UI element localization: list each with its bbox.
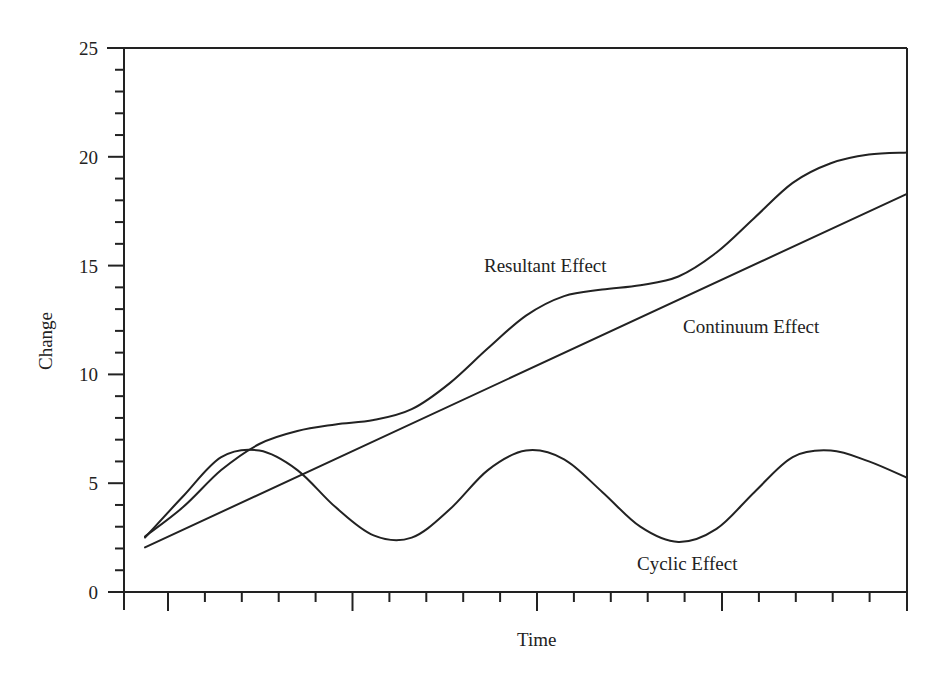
line-chart: 0510152025 Resultant Effect Continuum Ef… (0, 0, 940, 681)
cyclic-effect-label: Cyclic Effect (637, 553, 738, 574)
series-group (145, 152, 907, 547)
y-tick-label: 15 (79, 256, 98, 277)
x-axis-label: Time (517, 629, 556, 650)
continuum-effect-line (145, 194, 907, 548)
x-ticks (168, 592, 907, 611)
y-ticks: 0510152025 (79, 38, 124, 603)
y-tick-label: 0 (89, 582, 99, 603)
resultant-effect-line (145, 152, 907, 536)
y-tick-label: 10 (79, 364, 98, 385)
resultant-effect-label: Resultant Effect (484, 255, 607, 276)
y-tick-label: 25 (79, 38, 98, 59)
cyclic-effect-line (145, 450, 907, 542)
y-tick-label: 20 (79, 147, 98, 168)
y-tick-label: 5 (89, 473, 99, 494)
y-axis-label: Change (35, 312, 56, 370)
continuum-effect-label: Continuum Effect (683, 316, 820, 337)
